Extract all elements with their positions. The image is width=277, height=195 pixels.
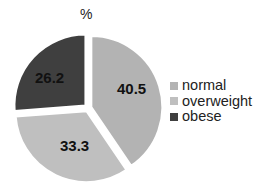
legend-swatch-overweight <box>170 97 178 105</box>
legend-label: overweight <box>182 94 252 110</box>
legend-swatch-obese <box>170 113 178 121</box>
legend-label: obese <box>182 109 222 125</box>
legend: normal overweight obese <box>170 78 252 125</box>
chart-title: % <box>80 6 92 22</box>
legend-item-obese: obese <box>170 109 252 125</box>
legend-item-overweight: overweight <box>170 94 252 110</box>
legend-swatch-normal <box>170 82 178 90</box>
data-label-overweight: 33.3 <box>60 137 89 154</box>
legend-item-normal: normal <box>170 78 252 94</box>
data-label-normal: 40.5 <box>117 80 146 97</box>
data-label-obese: 26.2 <box>35 69 64 86</box>
legend-label: normal <box>182 78 226 94</box>
